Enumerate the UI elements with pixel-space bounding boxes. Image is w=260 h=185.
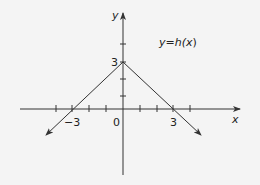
tick-label-0: 0 [113, 116, 120, 129]
function-right-branch [123, 62, 201, 135]
tick-label-neg3: −3 [64, 116, 80, 129]
graph-canvas: y x −3 0 3 3 y=h(x) [0, 0, 260, 185]
x-axis-label: x [231, 113, 239, 126]
function-label-h: h( [175, 36, 187, 49]
tick-label-3: 3 [170, 116, 177, 129]
function-left-branch [46, 62, 123, 135]
tick-label-y3: 3 [111, 56, 118, 69]
function-label-eq: = [166, 36, 175, 49]
function-label-close: ) [193, 36, 197, 49]
function-label: y=h(x) [158, 36, 197, 49]
y-axis-label: y [111, 9, 119, 22]
